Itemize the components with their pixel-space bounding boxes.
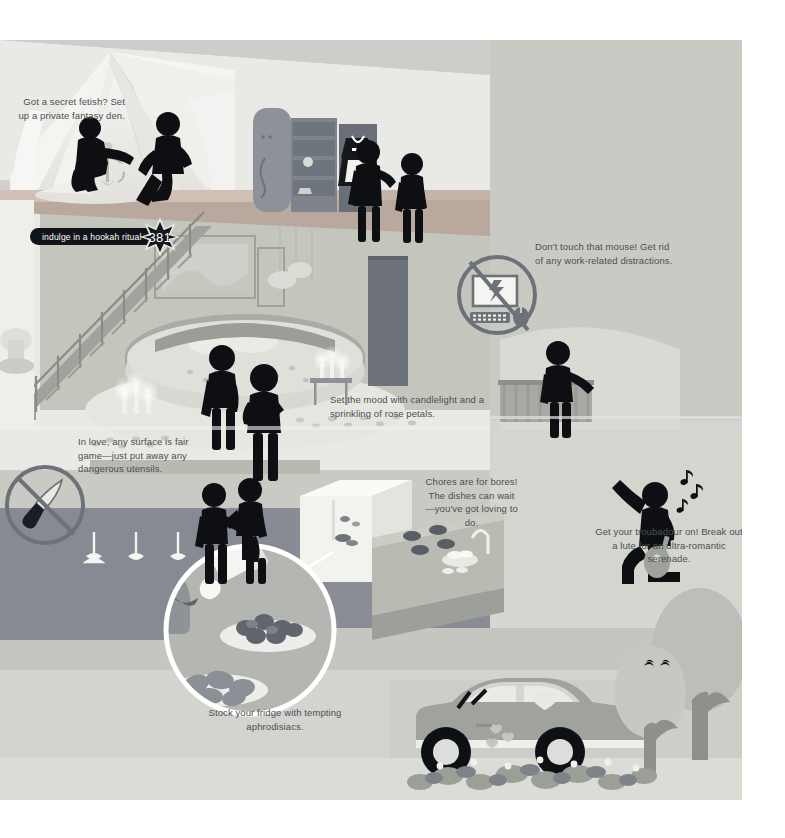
caption-chores: Chores are for bores! The dishes can wai… bbox=[424, 475, 519, 529]
side-lamp bbox=[0, 200, 34, 430]
caption-no-computer: Don't touch that mouse! Get rid of any w… bbox=[535, 240, 680, 267]
badge-label: indulge in a hookah ritual bbox=[42, 232, 141, 242]
caption-fridge: Stock your fridge with tempting aphrodis… bbox=[195, 706, 355, 733]
badge-number: 381 bbox=[141, 218, 179, 256]
infographic-canvas: Got a secret fetish? Set up a private fa… bbox=[0, 0, 785, 838]
caption-troubadour: Get your troubadour on! Break out a lute… bbox=[594, 525, 742, 566]
scene-vector bbox=[0, 40, 742, 800]
illustration-scene: Got a secret fetish? Set up a private fa… bbox=[0, 40, 742, 800]
caption-candlelight: Set the mood with candlelight and a spri… bbox=[330, 393, 495, 420]
caption-no-utensils: In love, any surface is fair game—just p… bbox=[78, 435, 213, 476]
balcony bbox=[490, 327, 742, 430]
caption-fantasy-den: Got a secret fetish? Set up a private fa… bbox=[10, 95, 125, 122]
